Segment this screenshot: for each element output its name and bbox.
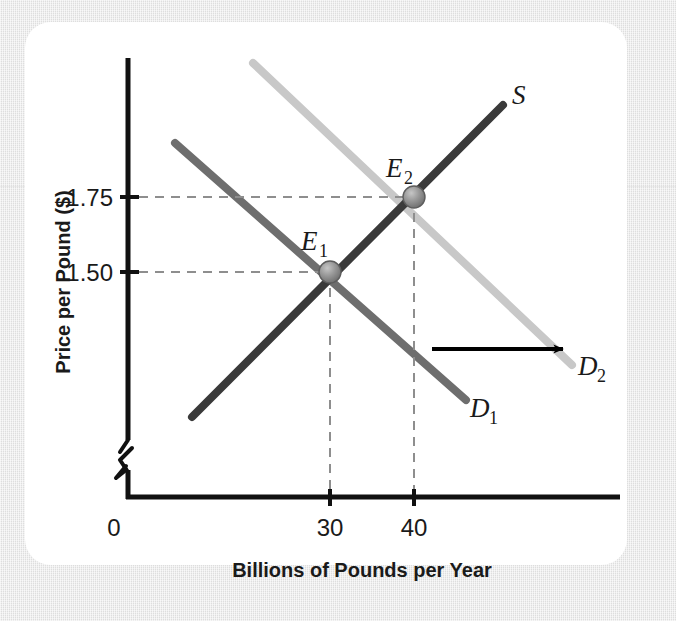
x-axis-tick-label-30: 30 bbox=[317, 514, 344, 541]
supply-curve-label: S bbox=[512, 80, 526, 110]
equilibrium-label-e2-subscript: 2 bbox=[404, 168, 413, 188]
figure-canvas: S D 1 D 2 E 1 E 2 1.75 1.50 0 30 40 Bill… bbox=[0, 0, 676, 621]
demand-curve-d1-label-subscript: 1 bbox=[489, 408, 498, 428]
equilibrium-label-e2: E bbox=[385, 153, 403, 183]
equilibrium-label-e1: E bbox=[300, 226, 318, 256]
demand-curve-d2-label-subscript: 2 bbox=[597, 366, 606, 386]
y-axis-break-zigzag-lower bbox=[116, 466, 126, 478]
y-axis-title: Price per Pound ($) bbox=[52, 190, 74, 373]
demand-curve-d2-label: D bbox=[577, 351, 598, 381]
demand-curve-d1-label: D bbox=[469, 393, 490, 423]
supply-demand-chart: S D 1 D 2 E 1 E 2 1.75 1.50 0 30 40 Bill… bbox=[0, 0, 676, 621]
x-axis-origin-label: 0 bbox=[107, 514, 120, 541]
x-axis-title: Billions of Pounds per Year bbox=[232, 559, 492, 581]
equilibrium-point-e2[interactable] bbox=[403, 186, 425, 208]
equilibrium-point-e1[interactable] bbox=[319, 261, 341, 283]
equilibrium-label-e1-subscript: 1 bbox=[319, 241, 328, 261]
x-axis-tick-label-40: 40 bbox=[401, 514, 428, 541]
